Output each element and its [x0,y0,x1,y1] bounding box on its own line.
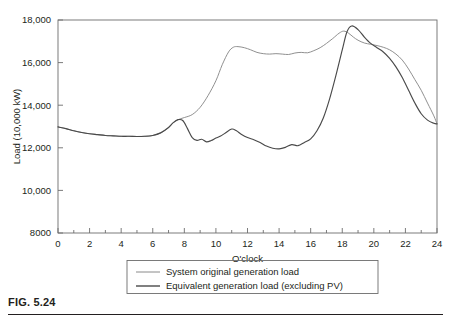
x-axis-tick-label: 0 [55,238,60,249]
y-axis-tick-label: 16,000 [22,57,51,68]
x-axis-tick-label: 16 [305,238,316,249]
x-axis-tick-label: 12 [242,238,253,249]
x-axis-tick-label: 10 [211,238,222,249]
y-axis-tick-label: 18,000 [22,14,51,25]
x-axis-tick-label: 14 [274,238,285,249]
x-axis-title: O'clock [232,253,263,264]
x-axis-tick-label: 20 [369,238,380,249]
chart-area: 800010,00012,00014,00016,00018,000024681… [0,0,451,260]
y-axis-tick-label: 8000 [30,227,51,238]
legend-label-2: Equivalent generation load (excluding PV… [166,280,343,291]
load-curve-chart: 800010,00012,00014,00016,00018,000024681… [0,0,451,300]
series-line-2 [58,26,437,149]
plot-frame [58,20,437,233]
x-axis-tick-label: 8 [182,238,187,249]
x-axis-tick-label: 2 [87,238,92,249]
figure-caption: FIG. 5.24 [8,296,56,308]
x-axis-tick-label: 4 [119,238,124,249]
x-axis-tick-label: 6 [150,238,155,249]
legend-label-1: System original generation load [166,266,299,277]
y-axis-tick-label: 12,000 [22,142,51,153]
x-axis-tick-label: 18 [337,238,348,249]
caption-divider [8,314,443,315]
figure-container: 800010,00012,00014,00016,00018,000024681… [0,0,451,325]
x-axis-tick-label: 24 [432,238,443,249]
y-axis-tick-label: 14,000 [22,100,51,111]
y-axis-tick-label: 10,000 [22,185,51,196]
y-axis-title: Load (10,000 kW) [11,89,22,165]
series-line-1 [58,31,437,136]
x-axis-tick-label: 22 [400,238,411,249]
